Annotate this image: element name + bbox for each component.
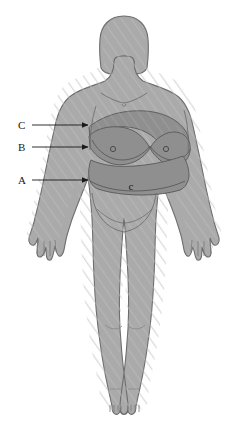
callout-c-label: C — [18, 119, 25, 131]
figure-panel: c C B A — [0, 0, 248, 424]
callout-b-label: B — [18, 141, 25, 153]
callout-a-label: A — [18, 174, 26, 186]
navel-mark: c — [129, 180, 134, 192]
body-diagram: c C B A — [0, 0, 248, 424]
